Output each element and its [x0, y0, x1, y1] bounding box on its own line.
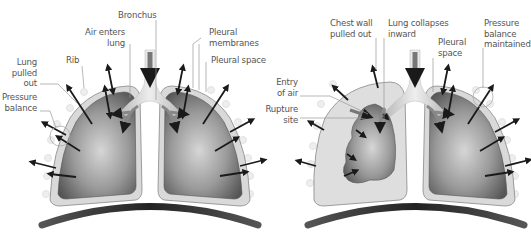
label-pleural-membranes: Pleural membranes	[209, 27, 259, 48]
label-rib: Rib	[66, 55, 79, 66]
label-pressure-balance: Pressure balance	[0, 92, 37, 113]
panel-normal	[32, 20, 264, 225]
label-chest-wall-pulled-out: Chest wall pulled out	[330, 18, 372, 39]
label-lung-pulled-out: Lung pulled out	[0, 57, 37, 89]
diaphragm	[308, 207, 524, 226]
panel-collapsed	[298, 38, 529, 225]
diaphragm	[42, 207, 258, 226]
label-bronchus: Bronchus	[118, 10, 156, 21]
label-pressure-balance-maintained: Pressure balance maintained	[484, 18, 531, 50]
label-lung-collapses-inward: Lung collapses inward	[388, 18, 449, 39]
label-rupture-site: Rupture site	[256, 104, 298, 125]
label-pleural-space-right: Pleural space	[438, 37, 466, 58]
diagram-canvas: Bronchus Air enters lung Pleural membran…	[0, 0, 531, 238]
label-air-enters-lung: Air enters lung	[85, 27, 125, 48]
label-entry-of-air: Entry of air	[260, 77, 298, 98]
label-pleural-space: Pleural space	[211, 55, 266, 66]
